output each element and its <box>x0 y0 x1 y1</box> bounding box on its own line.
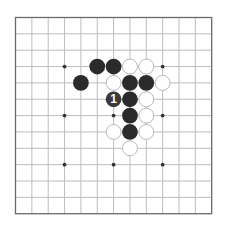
white-stone[interactable] <box>122 141 137 156</box>
black-stone[interactable] <box>122 75 138 91</box>
black-stone[interactable] <box>122 91 138 107</box>
star-point <box>112 163 116 167</box>
white-stone[interactable] <box>106 75 121 90</box>
white-stone[interactable] <box>139 124 154 139</box>
star-point <box>161 114 165 118</box>
star-point <box>161 65 165 69</box>
white-stone[interactable] <box>139 92 154 107</box>
white-stone[interactable] <box>106 124 121 139</box>
white-stone[interactable] <box>155 75 170 90</box>
star-point <box>112 114 116 118</box>
star-point <box>63 65 67 69</box>
black-stone[interactable] <box>122 124 138 140</box>
stones-layer: 1 <box>73 59 170 156</box>
white-stone[interactable] <box>139 59 154 74</box>
star-point <box>63 114 67 118</box>
black-stone[interactable] <box>73 75 89 91</box>
move-number-label: 1 <box>110 92 117 106</box>
black-stone[interactable] <box>138 75 154 91</box>
go-board[interactable]: 1 <box>0 0 226 230</box>
white-stone[interactable] <box>139 108 154 123</box>
star-point <box>161 163 165 167</box>
white-stone[interactable] <box>122 59 137 74</box>
black-stone[interactable] <box>89 59 105 75</box>
numbered-stone[interactable]: 1 <box>106 91 122 107</box>
star-point <box>63 163 67 167</box>
black-stone[interactable] <box>122 108 138 124</box>
black-stone[interactable] <box>106 59 122 75</box>
